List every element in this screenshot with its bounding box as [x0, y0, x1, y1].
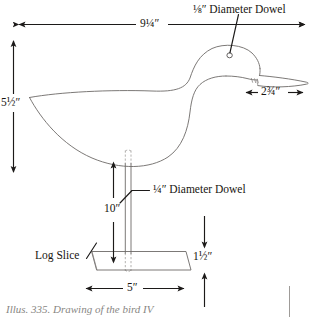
label-dimension-beak-length: 2¾″ — [261, 86, 280, 98]
dimension-body-length — [19, 22, 306, 28]
label-dimension-body-length: 9¼″ — [140, 18, 159, 30]
leg-dowel — [125, 150, 131, 272]
page-rule — [289, 286, 290, 317]
leader-line-top-dowel — [230, 15, 239, 54]
figure-caption: Illus. 335. Drawing of the bird IV — [6, 303, 153, 315]
bird-decoy-drawing — [0, 0, 312, 317]
label-log-slice: Log Slice — [35, 250, 79, 262]
log-slice-base — [92, 252, 191, 271]
label-dimension-leg-height: 10″ — [104, 203, 120, 215]
label-top-dowel: ⅛″ Diameter Dowel — [193, 4, 286, 16]
label-dimension-body-height: 5½″ — [1, 97, 20, 109]
label-leg-dowel: ¼″ Diameter Dowel — [153, 184, 246, 196]
eye-dowel-hole — [227, 53, 232, 58]
leader-line-leg-dowel-diagonal — [120, 191, 132, 204]
bird-body-outline — [30, 45, 261, 166]
label-dimension-base-thickness: 1½″ — [193, 251, 212, 263]
figure-page: ⅛″ Diameter Dowel 9¼″ 5½″ 2¾″ ¼″ Diamete… — [0, 0, 312, 317]
label-dimension-base-width: 5″ — [127, 282, 138, 294]
leader-line-log-slice — [87, 243, 97, 259]
